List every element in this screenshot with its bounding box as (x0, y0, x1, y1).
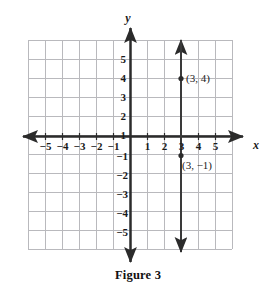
point-marker-3-neg1 (178, 153, 183, 158)
x-axis-label: x (252, 138, 259, 152)
y-tick-label: 1 (121, 129, 127, 141)
x-tick-label: −4 (57, 140, 69, 152)
y-tick-label: −1 (116, 150, 128, 162)
point-marker-3-4 (178, 76, 183, 81)
x-axis-tick-labels-negative: −5 −4 −3 −2 −1 (40, 140, 120, 152)
y-axis-tick-labels-negative: −1 −2 −3 −4 −5 (116, 150, 128, 238)
x-tick-label: −5 (40, 140, 52, 152)
y-tick-label: 3 (121, 91, 127, 103)
x-tick-label: −2 (91, 140, 103, 152)
y-axis-label: y (123, 11, 131, 25)
y-tick-label: −2 (116, 169, 128, 181)
y-tick-label: −5 (116, 226, 128, 238)
x-tick-label: 1 (145, 140, 151, 152)
y-axis-tick-labels-positive: 5 4 3 2 1 (121, 53, 127, 141)
x-tick-label: 3 (179, 140, 185, 152)
figure-container: −5 −4 −3 −2 −1 1 2 3 4 5 5 4 3 2 1 −1 −2… (0, 0, 276, 288)
coordinate-plane-graph: −5 −4 −3 −2 −1 1 2 3 4 5 5 4 3 2 1 −1 −2… (0, 0, 276, 288)
figure-caption: Figure 3 (0, 268, 276, 283)
y-tick-label: −3 (116, 188, 128, 200)
x-axis-tick-labels-positive: 1 2 3 4 5 (145, 140, 219, 152)
point-label-3-4: (3, 4) (186, 72, 210, 85)
x-tick-label: 5 (213, 140, 219, 152)
x-tick-label: −3 (74, 140, 86, 152)
y-tick-label: 5 (121, 53, 127, 65)
x-tick-label: 4 (196, 140, 202, 152)
y-tick-label: 2 (121, 110, 127, 122)
y-tick-label: −4 (116, 207, 128, 219)
x-tick-label: 2 (162, 140, 168, 152)
y-tick-label: 4 (121, 72, 127, 84)
point-label-3-neg1: (3, −1) (182, 159, 212, 172)
